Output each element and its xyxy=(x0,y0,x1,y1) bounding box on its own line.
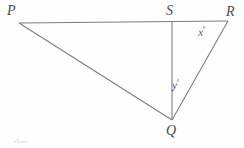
angle-label-y: y° xyxy=(172,79,180,91)
vertex-label-r: R xyxy=(226,5,235,19)
vertex-label-s: S xyxy=(166,4,173,18)
angle-label-x: x° xyxy=(198,26,206,38)
segment-PR xyxy=(19,21,228,23)
geometry-canvas xyxy=(0,0,244,148)
degree-symbol-y: ° xyxy=(177,78,180,86)
degree-symbol-x: ° xyxy=(203,25,206,33)
vertex-label-p: P xyxy=(7,4,16,18)
vertex-label-q: Q xyxy=(166,124,176,138)
segment-PQ xyxy=(19,23,172,120)
geometry-figure: P S R Q x° y° thm xyxy=(0,0,244,148)
cropped-page-text-artifact: thm xyxy=(14,138,60,143)
